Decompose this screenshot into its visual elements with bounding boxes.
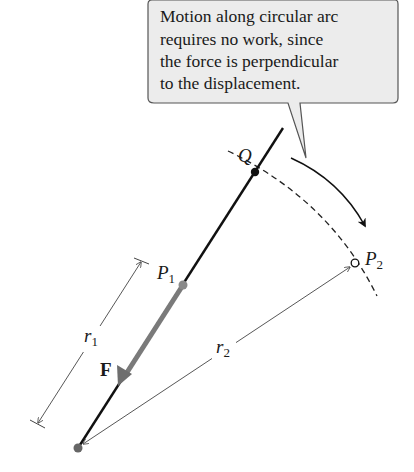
- label-r2: r2: [216, 336, 230, 360]
- motion-arrow: [291, 158, 365, 226]
- callout-line-3: the force is perpendicular: [160, 51, 338, 71]
- force-vector: [126, 285, 183, 374]
- label-Q: Q: [238, 145, 252, 166]
- callout-bubble: Motion along circular arc requires no wo…: [148, 0, 398, 158]
- point-Q: [251, 168, 259, 176]
- work-central-force-diagram: Motion along circular arc requires no wo…: [0, 0, 414, 472]
- callout-line-4: to the displacement.: [160, 73, 300, 93]
- callout-line-2: requires no work, since: [160, 29, 324, 49]
- label-P2: P2: [364, 248, 383, 272]
- point-origin: [74, 444, 83, 453]
- point-P2: [351, 259, 359, 267]
- label-P1: P1: [156, 262, 175, 286]
- label-F: F: [100, 359, 112, 380]
- point-P1: [179, 281, 188, 290]
- callout-line-1: Motion along circular arc: [160, 6, 339, 26]
- circular-arc-dashed: [228, 151, 377, 296]
